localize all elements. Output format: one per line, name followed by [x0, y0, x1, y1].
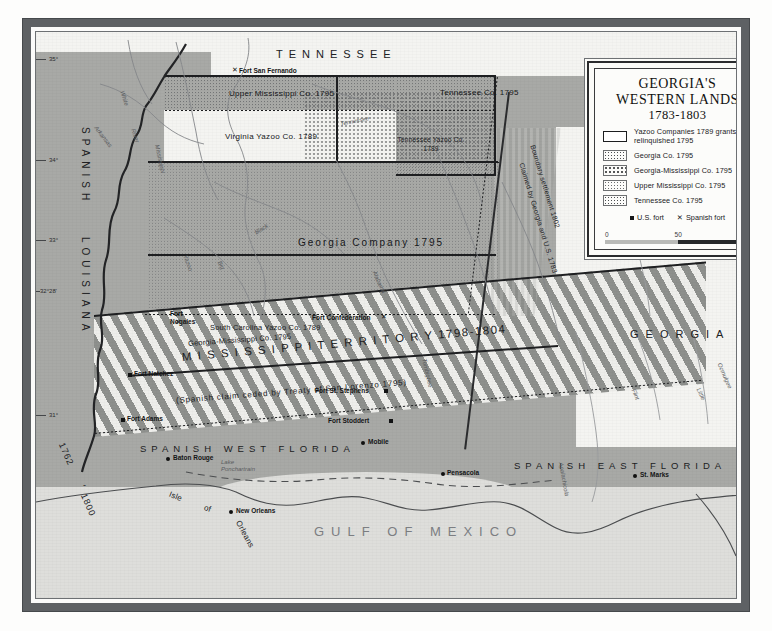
legend-spanish-fort-entry: ✕Spanish fort: [677, 213, 725, 222]
city-label-pensacola: Pensacola: [447, 469, 479, 476]
latitude-33: 33°: [49, 237, 58, 243]
legend-swatch-open-rectangle: [603, 131, 627, 142]
legend-label-upper-mississippi-co: Upper Mississippi Co. 1795: [634, 181, 725, 190]
label-gulf-of-mexico: GULF OF MEXICO: [314, 524, 523, 539]
legend-title-line1: GEORGIA'S: [603, 76, 736, 92]
city-label-new-orleans: New Orleans: [236, 507, 275, 514]
map-legend: GEORGIA'S WESTERN LANDS 1783-1803 Yazoo …: [587, 61, 736, 257]
company-label-georgia-company: Georgia Company 1795: [298, 237, 444, 248]
feature-label-lake-ponchartrain: Lake Ponchartrain: [221, 459, 263, 473]
latitude-31: 31°: [49, 412, 58, 418]
st-marks-dot: [633, 474, 637, 478]
company-label-south-carolina-yazoo: South Carolina Yazoo Co. 1789: [210, 323, 321, 332]
x-cross-icon: ✕: [677, 213, 683, 222]
map-canvas: TENNESSEE SPANISH LOUISIANA GEORGIA SPAN…: [36, 32, 736, 598]
filled-square-icon: [630, 216, 634, 220]
legend-scale-bar: 0 50 100: [603, 231, 736, 253]
company-label-tennessee-yazoo: Tennessee Yazoo Co. 1789: [396, 136, 466, 154]
company-label-upper-mississippi: Upper Mississippi Co. 1795: [229, 89, 334, 98]
legend-swatch-dot-mid: [603, 165, 627, 176]
latitude-34: 34°: [49, 157, 58, 163]
company-label-tennessee-co: Tennessee Co. 1795: [440, 88, 519, 97]
scale-label-min: 0: [605, 231, 609, 238]
annotation-dash: -: [83, 480, 86, 490]
fort-adams-icon: [121, 418, 125, 422]
legend-inner-box: GEORGIA'S WESTERN LANDS 1783-1803 Yazoo …: [594, 68, 736, 250]
fort-adams-label: Fort Adams: [127, 415, 163, 422]
city-label-mobile: Mobile: [368, 438, 389, 445]
scale-bar-graphic: [605, 240, 736, 244]
legend-swatch-dot-dense: [603, 150, 627, 161]
fort-st-stephens-label: Fort St. Stephens: [315, 387, 369, 394]
latitude-32-28: 32°28': [40, 288, 57, 294]
lat-tick-32-28: [36, 291, 40, 292]
legend-label-georgia-mississippi-co: Georgia-Mississippi Co. 1795: [634, 166, 732, 175]
legend-swatch-dot-dense-2: [603, 195, 627, 206]
legend-label-spanish-fort: Spanish fort: [686, 213, 725, 222]
scale-bar-left-half: [605, 240, 678, 244]
company-label-virginia-yazoo: Virginia Yazoo Co. 1789: [225, 132, 317, 141]
legend-label-us-fort: U.S. fort: [637, 213, 664, 222]
legend-us-fort-entry: U.S. fort: [630, 213, 664, 222]
fort-stoddert-label: Fort Stoddert: [328, 417, 369, 424]
legend-entry-georgia-co: Georgia Co. 1795: [603, 150, 736, 161]
legend-label-yazoo: Yazoo Companies 1789 grants relinquished…: [634, 127, 736, 145]
lat-tick-33: [36, 240, 46, 241]
legend-fort-key: U.S. fort ✕Spanish fort: [603, 213, 736, 222]
legend-entry-upper-mississippi-co: Upper Mississippi Co. 1795: [603, 180, 736, 191]
fort-natchez-label: Fort Natchez: [134, 370, 173, 377]
legend-entry-tennessee-co: Tennessee Co. 1795: [603, 195, 736, 206]
state-label-louisiana: LOUISIANA: [80, 237, 91, 335]
fort-confederation-icon: ✕: [381, 315, 387, 319]
legend-swatch-dot-fine: [603, 180, 627, 191]
fort-san-fernando-label: Fort San Fernando: [239, 67, 297, 74]
city-label-baton-rouge: Baton Rouge: [173, 454, 213, 461]
state-label-tennessee: TENNESSEE: [276, 48, 397, 60]
scale-label-mid: 50: [675, 231, 682, 238]
fort-san-fernando-icon: ✕: [232, 68, 238, 72]
state-label-georgia: GEORGIA: [630, 328, 730, 340]
fort-natchez-icon: [128, 373, 132, 377]
city-label-st-marks: St. Marks: [640, 471, 669, 478]
new-orleans-dot: [229, 510, 233, 514]
latitude-35: 35°: [49, 56, 58, 62]
legend-date-range: 1783-1803: [603, 108, 736, 123]
baton-rouge-dot: [166, 457, 170, 461]
fort-nogales-label: Fort Nogales: [170, 310, 196, 326]
legend-entry-georgia-mississippi-co: Georgia-Mississippi Co. 1795: [603, 165, 736, 176]
fort-stoddert-icon: [389, 419, 393, 423]
lat-tick-34: [36, 160, 46, 161]
lat-tick-35: [36, 59, 46, 60]
frame-inner-mat: TENNESSEE SPANISH LOUISIANA GEORGIA SPAN…: [31, 27, 741, 603]
pensacola-dot: [441, 472, 445, 476]
lat-tick-31: [36, 415, 46, 416]
fort-confederation-label: Fort Confederation: [312, 314, 371, 321]
state-label-spanish-west-florida: SPANISH WEST FLORIDA: [140, 443, 355, 454]
map-page: TENNESSEE SPANISH LOUISIANA GEORGIA SPAN…: [0, 0, 772, 631]
fort-st-stephens-icon: [384, 389, 388, 393]
legend-label-tennessee-co: Tennessee Co. 1795: [634, 196, 703, 205]
scale-bar-right-half: [678, 240, 737, 244]
mobile-dot: [361, 441, 365, 445]
map-frame: TENNESSEE SPANISH LOUISIANA GEORGIA SPAN…: [22, 18, 750, 612]
state-label-spanish: SPANISH: [80, 127, 91, 205]
state-label-spanish-east-florida: SPANISH EAST FLORIDA: [514, 460, 726, 471]
legend-label-georgia-co: Georgia Co. 1795: [634, 151, 693, 160]
legend-title-line2: WESTERN LANDS: [603, 92, 736, 108]
legend-entry-yazoo: Yazoo Companies 1789 grants relinquished…: [603, 127, 736, 145]
